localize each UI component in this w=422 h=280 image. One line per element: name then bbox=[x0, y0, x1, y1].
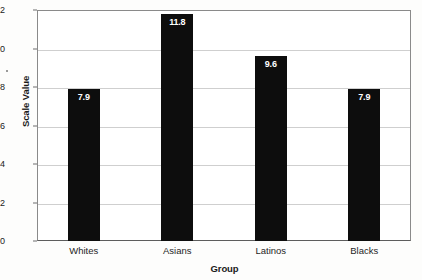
y-tick-label: 0 bbox=[0, 236, 5, 246]
y-tick-label: 2 bbox=[0, 198, 5, 208]
bar-value-label: 7.9 bbox=[68, 92, 100, 102]
y-tick-mark bbox=[33, 241, 37, 242]
y-axis-title: Scale Value bbox=[20, 47, 31, 157]
bar-value-label: 11.8 bbox=[161, 17, 193, 27]
bar-whites[interactable]: 7.9 bbox=[68, 89, 100, 241]
bar-value-label: 9.6 bbox=[255, 59, 287, 69]
x-axis-title: Group bbox=[37, 263, 412, 274]
y-tick-label: 8 bbox=[0, 82, 5, 92]
y-tick-label: 10 bbox=[0, 44, 5, 54]
bar-blacks[interactable]: 7.9 bbox=[348, 89, 380, 241]
y-tick-mark bbox=[33, 125, 37, 126]
bar-value-label: 7.9 bbox=[348, 92, 380, 102]
y-tick-mark bbox=[33, 48, 37, 49]
x-tick-label: Whites bbox=[39, 245, 129, 256]
y-tick-label: 6 bbox=[0, 121, 5, 131]
bar-chart-figure: Scale Value 024681012 7.911.89.67.9 Whit… bbox=[0, 0, 422, 280]
y-tick-mark bbox=[33, 202, 37, 203]
scan-artifact-speck bbox=[6, 70, 8, 72]
bar-asians[interactable]: 11.8 bbox=[161, 14, 193, 241]
y-tick-label: 4 bbox=[0, 159, 5, 169]
y-tick-mark bbox=[33, 10, 37, 11]
y-tick-label: 12 bbox=[0, 5, 5, 15]
x-tick-label: Latinos bbox=[226, 245, 316, 256]
y-tick-mark bbox=[33, 87, 37, 88]
x-tick-label: Blacks bbox=[319, 245, 409, 256]
bar-latinos[interactable]: 9.6 bbox=[255, 56, 287, 241]
y-tick-mark bbox=[33, 164, 37, 165]
x-tick-label: Asians bbox=[132, 245, 222, 256]
gridline bbox=[38, 50, 410, 51]
